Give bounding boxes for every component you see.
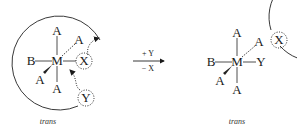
right-circle	[269, 0, 297, 61]
ligand-bottom: A	[52, 81, 62, 96]
left-complex: A A B M X A A Y trans	[12, 16, 100, 126]
ligand-upper-right: A	[254, 34, 264, 49]
ligand-upper-right: A	[74, 32, 84, 47]
right-caption: trans	[229, 117, 245, 126]
arrow-below: − X	[142, 64, 155, 73]
ligand-left: B	[27, 53, 36, 68]
ligand-y: Y	[256, 54, 266, 69]
ligand-x: X	[79, 53, 89, 68]
right-complex: A A B M Y A A X trans	[207, 0, 297, 126]
ligand-left: B	[207, 54, 216, 69]
ligand-lower-left: A	[215, 73, 225, 88]
ligand-top: A	[52, 23, 62, 38]
ligand-top: A	[232, 25, 242, 40]
ligand-bottom: A	[232, 82, 242, 97]
metal-center: M	[231, 54, 243, 69]
leaving-x: X	[274, 32, 284, 47]
arrow-above: + Y	[142, 49, 154, 58]
metal-center: M	[51, 53, 63, 68]
entering-y: Y	[81, 90, 91, 105]
substitution-diagram: A A B M X A A Y trans + Y − X A A B M Y …	[0, 0, 297, 131]
ligand-lower-left: A	[35, 72, 45, 87]
left-caption: trans	[40, 117, 56, 126]
reaction-arrow: + Y − X	[133, 49, 164, 73]
